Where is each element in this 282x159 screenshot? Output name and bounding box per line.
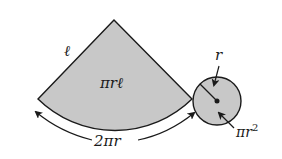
circle-area-exponent: 2 bbox=[252, 122, 258, 133]
slant-label: ℓ bbox=[64, 42, 70, 60]
circle-area-label: πr2 bbox=[235, 122, 258, 140]
sector-area-label: πrℓ bbox=[99, 74, 123, 92]
cone-net-diagram: ℓ πrℓ 2πr r πr2 bbox=[0, 0, 282, 159]
center-dot bbox=[215, 99, 220, 104]
circle-area-base: πr bbox=[235, 124, 253, 140]
radius-label: r bbox=[215, 46, 223, 64]
arc-length-label: 2πr bbox=[93, 132, 121, 150]
